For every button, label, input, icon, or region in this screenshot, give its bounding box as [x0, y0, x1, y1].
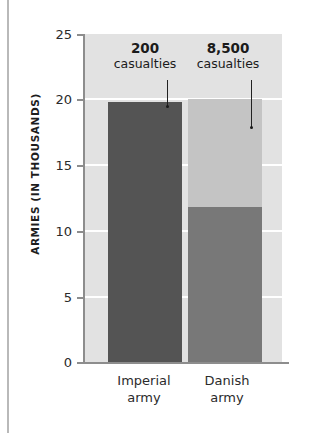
y-tick-25	[77, 34, 84, 36]
left-margin-rule	[7, 0, 9, 433]
bar-imperial-army	[108, 102, 182, 362]
y-axis-line	[83, 34, 85, 364]
x-category-label-danish-line1: Danish	[177, 372, 277, 389]
y-tick-label-15: 15	[28, 159, 72, 172]
x-category-label-danish-army: Danish army	[177, 372, 277, 406]
annotation-imperial-value: 200	[97, 40, 193, 56]
annotation-imperial-casualties: 200 casualties	[97, 40, 193, 72]
y-tick-label-10: 10	[28, 225, 72, 238]
x-axis-line	[77, 362, 289, 364]
y-tick-label-0: 0	[28, 356, 72, 369]
x-category-label-danish-line2: army	[177, 389, 277, 406]
y-tick-5	[77, 297, 84, 299]
y-tick-label-25: 25	[28, 28, 72, 41]
bar-danish-army-survivors	[188, 207, 262, 362]
y-tick-label-5: 5	[28, 291, 72, 304]
annotation-danish-casualties: 8,500 casualties	[180, 40, 276, 72]
annotation-danish-value: 8,500	[180, 40, 276, 56]
annotation-imperial-unit: casualties	[97, 56, 193, 72]
plot-area	[85, 34, 282, 362]
y-tick-label-20: 20	[28, 93, 72, 106]
y-tick-15	[77, 165, 84, 167]
leader-dot-imperial	[166, 105, 169, 108]
leader-dot-danish	[250, 126, 253, 129]
annotation-danish-unit: casualties	[180, 56, 276, 72]
y-tick-0	[77, 362, 84, 364]
leader-line-danish	[251, 80, 252, 128]
y-tick-20	[77, 99, 84, 101]
leader-line-imperial	[167, 80, 168, 107]
y-tick-10	[77, 231, 84, 233]
